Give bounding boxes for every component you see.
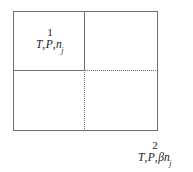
region-1-mole-subscript: j — [61, 46, 63, 55]
vertical-dotted-divider — [84, 70, 85, 131]
region-1-variables: T,P,nj — [21, 38, 79, 54]
region-1-number: 1 — [21, 26, 79, 38]
horizontal-solid-divider — [13, 70, 84, 71]
horizontal-dotted-divider — [84, 70, 158, 71]
vertical-solid-divider — [84, 11, 85, 70]
region-2-label: 2 T,P,βnj — [118, 139, 192, 168]
region-1-label: 1 T,P,nj — [21, 26, 79, 55]
region-2-mole-subscript: j — [169, 159, 171, 168]
region-2-pressure-symbol: P — [148, 151, 155, 163]
diagram-canvas: 1 T,P,nj 2 T,P,βnj — [0, 0, 193, 172]
region-1-pressure-symbol: P — [46, 38, 53, 50]
region-2-number: 2 — [118, 139, 192, 151]
region-2-variables: T,P,βnj — [118, 151, 192, 167]
